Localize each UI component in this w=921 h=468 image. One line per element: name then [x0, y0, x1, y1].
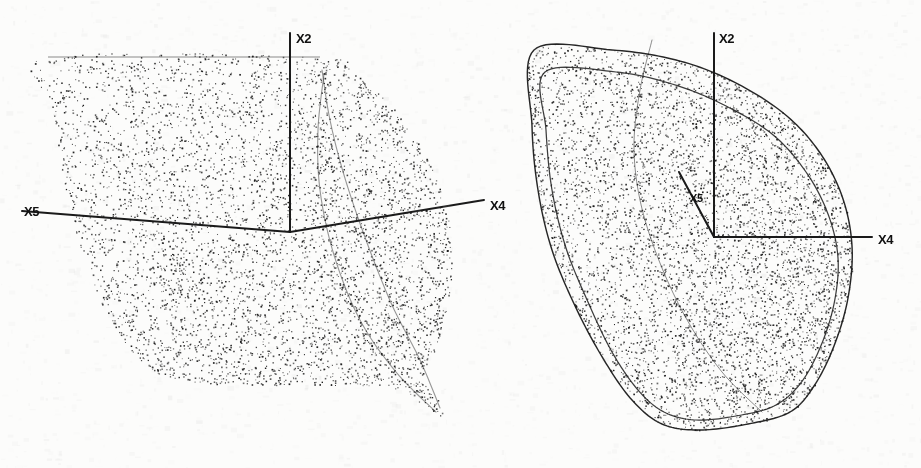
axis-label-right-x4: X4 [878, 233, 893, 246]
axis-label-right-x2: X2 [719, 32, 734, 45]
projection-plot-canvas [0, 0, 921, 468]
axis-label-right-x5: X5 [690, 193, 703, 204]
axis-label-left-x5: X5 [24, 205, 39, 218]
axis-label-left-x2: X2 [296, 32, 311, 45]
axis-label-left-x4: X4 [490, 199, 505, 212]
figure-container: X2 X5 X4 X2 X4 X5 [0, 0, 921, 468]
